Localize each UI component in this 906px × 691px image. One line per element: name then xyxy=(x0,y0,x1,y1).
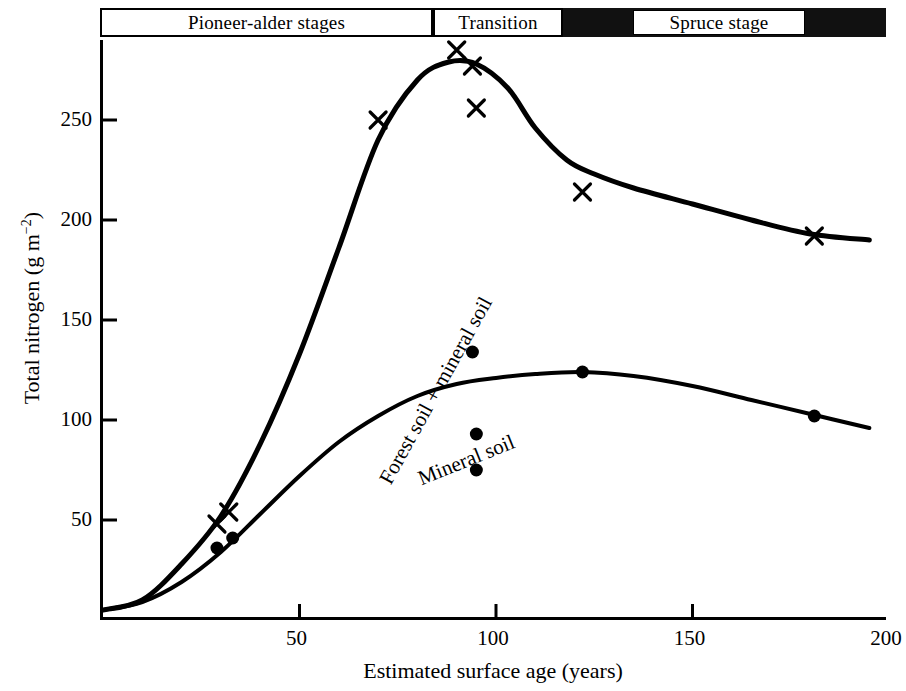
plot-frame: Forest soil + mineral soil Mineral soil xyxy=(100,40,886,620)
data-point-marker-x xyxy=(370,112,386,128)
x-axis-tick-label: 100 xyxy=(458,628,528,649)
y-axis-title: Total nitrogen (g m−2) xyxy=(19,108,45,508)
stage-banner: Pioneer-alder stages Transition Spruce s… xyxy=(100,8,886,37)
x-axis-title: Estimated surface age (years) xyxy=(100,658,886,684)
x-axis-tick-label: 50 xyxy=(262,628,332,649)
x-axis-tick-label: 200 xyxy=(851,628,906,649)
y-axis-title-close: ) xyxy=(19,212,44,219)
curve-mineral-soil xyxy=(103,372,869,610)
plot-canvas xyxy=(103,40,889,620)
data-markers-forest-plus-mineral-soil xyxy=(209,42,822,532)
data-point-marker-dot xyxy=(576,366,589,379)
y-axis-tick-label: 50 xyxy=(32,509,92,530)
stage-label-spruce: Spruce stage xyxy=(633,10,805,35)
data-point-marker-x xyxy=(449,42,465,58)
x-axis-tick-label: 150 xyxy=(655,628,725,649)
y-axis-title-exponent: −2 xyxy=(19,219,34,234)
data-point-marker-dot xyxy=(226,532,239,545)
y-axis-title-main: Total nitrogen (g m xyxy=(19,234,44,404)
data-point-marker-dot xyxy=(470,428,483,441)
x-axis-tick-labels: 50100150200 xyxy=(100,628,900,656)
y-axis-ticks xyxy=(103,120,117,520)
data-point-marker-x xyxy=(574,184,590,200)
stage-label-pioneer-alder: Pioneer-alder stages xyxy=(100,8,433,37)
stage-label-transition: Transition xyxy=(433,8,563,37)
x-axis-ticks xyxy=(300,604,693,620)
curve-forest-plus-mineral-soil xyxy=(103,60,869,610)
data-point-marker-dot xyxy=(210,542,223,555)
data-point-marker-dot xyxy=(808,410,821,423)
data-point-marker-x xyxy=(468,100,484,116)
